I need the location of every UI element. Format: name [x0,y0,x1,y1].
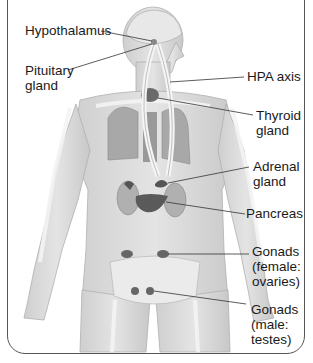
label-gonads-male-line1: Gonads [251,302,298,317]
ovary-left [121,250,133,258]
label-pituitary-line2: gland [25,78,58,93]
label-gonads-female-line1: Gonads [252,244,299,259]
label-gonads-female-line3: ovaries) [252,274,300,289]
label-adrenal-line1: Adrenal [253,159,300,174]
label-pancreas: Pancreas [246,206,303,221]
label-gonads-female-line2: (female: [252,259,301,274]
pelvis [110,256,200,304]
label-thyroid-line2: gland [256,123,289,138]
label-hpa-axis: HPA axis [247,69,301,84]
label-hypothalamus: Hypothalamus [25,23,111,38]
label-gonads-male-line3: testes) [251,332,292,347]
label-pituitary-line1: Pituitary [25,63,74,78]
testis-left [131,287,139,295]
label-adrenal-line2: gland [253,174,286,189]
testis-right [146,287,154,295]
ovary-right [157,250,169,258]
label-thyroid-line1: Thyroid [256,108,301,123]
label-gonads-male-line2: (male: [251,317,289,332]
